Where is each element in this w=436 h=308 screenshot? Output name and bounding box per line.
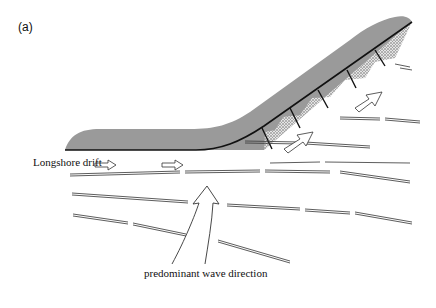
longshore-drift-arrows bbox=[95, 160, 183, 170]
longshore-drift-label: Longshore drift bbox=[33, 156, 102, 168]
drift-arrow-2 bbox=[162, 160, 183, 170]
wave-direction-arrow bbox=[172, 186, 219, 264]
wave-arrow-2 bbox=[355, 92, 382, 112]
land-mass bbox=[65, 16, 412, 150]
coastline-diagram bbox=[0, 0, 436, 308]
figure-canvas: (a) Longshore drift predominant wave dir… bbox=[0, 0, 436, 308]
wave-direction-label: predominant wave direction bbox=[144, 267, 267, 279]
panel-label: (a) bbox=[18, 20, 33, 34]
wave-crest-lines bbox=[70, 64, 420, 263]
